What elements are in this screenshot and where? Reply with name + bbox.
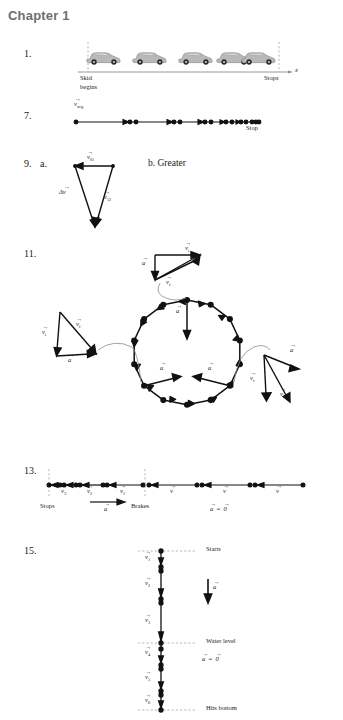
problem-number-13: 13.	[24, 465, 37, 476]
label-15-v2: → v2	[145, 579, 150, 588]
label-center-a-right: → a	[208, 364, 211, 371]
label-13-v-a: → v	[170, 487, 173, 494]
label-top-callout-a: → a	[142, 259, 145, 266]
label-15-v4: → v4	[145, 648, 150, 657]
page-title: Chapter 1	[8, 8, 70, 23]
figure-problem-11: → vi → a → vf → a → a	[42, 250, 332, 450]
label-15-a-zero: → a = → 0	[202, 655, 219, 662]
answers-page: Chapter 1 1.	[0, 0, 343, 720]
label-right-callout-a: → a	[290, 346, 293, 353]
problem-number-7: 7.	[24, 110, 32, 121]
label-15-v3: → v3	[145, 616, 150, 625]
label-13-stops: Stops	[40, 502, 54, 509]
label-right-callout-vi: → vi	[280, 390, 284, 399]
label-right-callout-vf: → vf	[250, 374, 254, 383]
label-15-a: → a	[213, 583, 216, 590]
figure-problem-9: → v01 → Δv → v12	[60, 155, 145, 240]
problem-9-part-b: b. Greater	[148, 158, 186, 168]
figure-problem-1: Skid begins Stops x	[78, 40, 308, 90]
label-stops: Stops	[264, 74, 278, 81]
label-15-v1: → v1	[145, 553, 150, 562]
label-v-avg: → vavg	[74, 100, 83, 109]
label-left-callout-vf: → vf	[76, 320, 80, 329]
label-15-v5: → v5	[145, 673, 150, 682]
label-delta-v: → Δv	[59, 188, 66, 195]
label-center-a-left: → a	[160, 364, 163, 371]
label-v12: → v12	[104, 193, 111, 202]
label-13-v-b: → v	[223, 487, 226, 494]
label-13-a: → a	[104, 505, 107, 512]
label-left-callout-a: → a	[68, 356, 71, 363]
problem-number-15: 15.	[24, 545, 37, 556]
problem-number-1: 1.	[24, 48, 32, 59]
label-x-axis: x	[295, 66, 298, 73]
label-v01: → v01	[87, 153, 94, 162]
label-center-a-top: → a	[176, 307, 179, 314]
label-skid-begins-line2: begins	[80, 83, 97, 90]
label-top-callout-vf: → vf	[166, 278, 170, 287]
label-13-v-c: → v	[276, 487, 279, 494]
label-13-brakes: Brakes	[131, 502, 149, 509]
label-13-v2: → v2	[87, 487, 92, 496]
problem-9-part-a: a.	[40, 158, 47, 169]
label-top-callout-vi: → vi	[185, 244, 189, 253]
label-13-a-zero: → a = → 0	[210, 505, 227, 512]
label-13-v3: → v3	[61, 487, 66, 496]
problem-number-9: 9.	[24, 158, 32, 169]
label-13-v1: → v1	[120, 487, 125, 496]
label-stop: Stop	[246, 124, 258, 131]
label-15-water-level: Water level	[206, 637, 236, 644]
problem-number-11: 11.	[24, 248, 36, 259]
label-15-starts: Starts	[206, 545, 221, 552]
figure-problem-15: Starts Water level Hits bottom → a → a =…	[136, 543, 256, 718]
label-15-hits-bottom: Hits bottom	[206, 704, 237, 711]
figure-problem-7: → vavg Stop	[74, 104, 274, 134]
figure-problem-13: → v3 → v2 → v1 → v → v	[42, 466, 322, 506]
label-15-v6: → v6	[145, 696, 150, 705]
label-left-callout-vi: → vi	[42, 328, 46, 337]
label-skid-begins-line1: Skid	[80, 74, 92, 81]
